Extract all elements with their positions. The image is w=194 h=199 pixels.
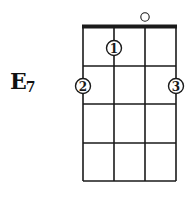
finger-marker-3: 3 bbox=[169, 79, 184, 94]
fretboard-grid bbox=[82, 25, 177, 182]
nut bbox=[82, 25, 177, 29]
finger-marker-2: 2 bbox=[76, 79, 91, 94]
finger-marker-1: 1 bbox=[107, 41, 122, 56]
open-string-marker bbox=[141, 13, 149, 21]
finger-number: 2 bbox=[79, 80, 87, 94]
finger-number: 3 bbox=[172, 80, 180, 94]
chord-diagram: 1 2 3 bbox=[0, 0, 194, 199]
finger-number: 1 bbox=[110, 42, 118, 56]
